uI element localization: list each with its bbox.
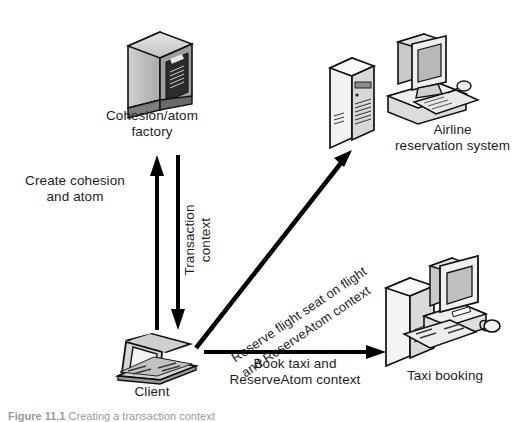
server-cabinet-icon <box>128 32 192 118</box>
laptop-icon <box>118 334 196 384</box>
arrow-create-cohesion <box>150 155 164 330</box>
edge-label-transaction-context: Transaction context <box>182 160 214 320</box>
node-label-factory: Cohesion/atom factory <box>92 108 212 140</box>
node-label-client: Client <box>122 384 182 400</box>
edge-label-create-cohesion: Create cohesion and atom <box>10 173 140 205</box>
figure-caption-text: Creating a transaction context <box>69 410 215 422</box>
figure-caption: Figure 11.1 Creating a transaction conte… <box>8 410 215 422</box>
node-label-taxi: Taxi booking <box>390 368 500 384</box>
figure-caption-prefix: Figure 11.1 <box>8 410 65 422</box>
node-label-airline: Airline reservation system <box>385 122 520 154</box>
edge-label-book-taxi: Book taxi and ReserveAtom context <box>215 356 375 388</box>
